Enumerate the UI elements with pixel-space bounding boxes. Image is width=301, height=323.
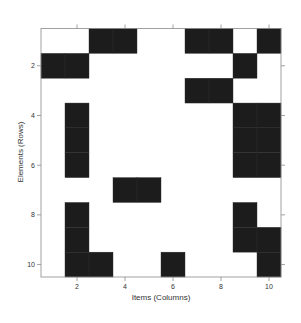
x-axis-title: Items (Columns) bbox=[132, 293, 191, 302]
matrix-cell bbox=[233, 202, 257, 227]
matrix-cell bbox=[185, 78, 209, 103]
matrix-cell bbox=[233, 53, 257, 78]
matrix-cell bbox=[257, 153, 281, 178]
y-tick-label: 2 bbox=[31, 62, 35, 69]
matrix-cell bbox=[257, 227, 281, 252]
x-tick-label: 10 bbox=[265, 283, 273, 290]
matrix-cell bbox=[137, 178, 161, 203]
matrix-cell bbox=[209, 29, 233, 54]
y-tick-label: 4 bbox=[31, 112, 35, 119]
y-tick-label: 10 bbox=[27, 261, 35, 268]
x-tick-label: 2 bbox=[75, 283, 79, 290]
matrix-cells bbox=[41, 29, 281, 278]
matrix-cell bbox=[65, 128, 89, 153]
matrix-cell bbox=[233, 128, 257, 153]
matrix-cell bbox=[65, 53, 89, 78]
matrix-cell bbox=[185, 29, 209, 54]
matrix-cell bbox=[233, 227, 257, 252]
matrix-cell bbox=[65, 103, 89, 128]
y-tick-label: 8 bbox=[31, 211, 35, 218]
matrix-cell bbox=[161, 252, 185, 277]
matrix-plot: 246810246810 Items (Columns) Elements (R… bbox=[0, 0, 301, 323]
matrix-cell bbox=[257, 103, 281, 128]
matrix-cell bbox=[257, 29, 281, 54]
matrix-cell bbox=[113, 178, 137, 203]
x-tick-label: 6 bbox=[171, 283, 175, 290]
x-tick-label: 4 bbox=[123, 283, 127, 290]
matrix-cell bbox=[65, 227, 89, 252]
y-tick-label: 6 bbox=[31, 162, 35, 169]
matrix-cell bbox=[41, 53, 65, 78]
x-tick-label: 8 bbox=[219, 283, 223, 290]
matrix-cell bbox=[89, 29, 113, 54]
matrix-cell bbox=[257, 252, 281, 277]
matrix-cell bbox=[209, 78, 233, 103]
y-axis-title: Elements (Rows) bbox=[16, 121, 25, 182]
matrix-cell bbox=[65, 153, 89, 178]
matrix-cell bbox=[113, 29, 137, 54]
matrix-cell bbox=[65, 252, 89, 277]
matrix-cell bbox=[65, 202, 89, 227]
matrix-cell bbox=[233, 153, 257, 178]
matrix-cell bbox=[233, 103, 257, 128]
matrix-cell bbox=[89, 252, 113, 277]
matrix-cell bbox=[257, 128, 281, 153]
